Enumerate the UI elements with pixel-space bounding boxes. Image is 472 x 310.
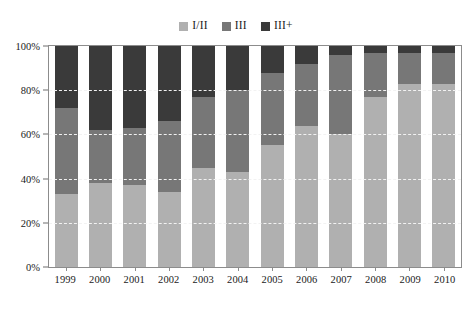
legend-swatch-iii-plus [261,22,270,31]
stacked-bar-2010[interactable] [432,46,455,267]
y-axis-tick-label: 60% [21,129,40,140]
bar-segment-1999-i-ii[interactable] [55,194,78,267]
chart-legend: I/IIIIIIII+ [0,18,472,34]
stacked-bar-2009[interactable] [398,46,421,267]
bar-slot-2004 [221,46,255,267]
y-axis-tick: 20% [21,217,49,228]
x-axis-tick-mark [375,267,376,271]
bar-segment-2006-iii[interactable] [295,64,318,126]
legend-swatch-i-ii [179,22,188,31]
bar-slot-2001 [118,46,152,267]
x-axis-label-2009: 2009 [393,274,428,285]
stacked-bar-2003[interactable] [192,46,215,267]
x-axis-label-2003: 2003 [186,274,221,285]
bar-segment-2006-i-ii[interactable] [295,126,318,267]
x-axis-labels: 1999200020012002200320042005200620072008… [48,274,462,285]
bar-segment-2003-iii[interactable] [192,46,215,97]
x-axis-label-2006: 2006 [290,274,325,285]
bar-segment-2007-iii[interactable] [329,55,352,135]
bar-segment-2004-iii[interactable] [226,46,249,90]
y-axis-tick-mark [43,134,48,135]
x-axis-label-2004: 2004 [221,274,256,285]
bar-segment-2003-iii[interactable] [192,97,215,168]
bar-slot-2003 [186,46,220,267]
x-axis-tick-mark [409,267,410,271]
y-axis-tick: 40% [21,173,49,184]
y-axis-tick-label: 0% [26,262,40,273]
bar-slot-2009 [392,46,426,267]
y-axis-tick-label: 20% [21,217,40,228]
y-axis-tick-mark [43,46,48,47]
bar-segment-2003-i-ii[interactable] [192,168,215,267]
bar-segment-2007-iii[interactable] [329,46,352,55]
bar-segment-1999-iii[interactable] [55,46,78,108]
bar-segment-2009-i-ii[interactable] [398,84,421,267]
y-axis-tick: 80% [21,85,49,96]
bar-segment-2001-iii[interactable] [123,46,146,128]
bar-segment-2005-iii[interactable] [261,46,284,73]
bar-segment-2008-i-ii[interactable] [364,97,387,267]
y-axis-tick: 60% [21,129,49,140]
bar-segment-2008-iii[interactable] [364,53,387,97]
bar-segment-2008-iii[interactable] [364,46,387,53]
x-axis-label-2008: 2008 [359,274,394,285]
bar-segment-2004-i-ii[interactable] [226,172,249,267]
stacked-bar-2000[interactable] [89,46,112,267]
legend-swatch-iii [222,22,231,31]
bar-segment-2002-iii[interactable] [158,46,181,121]
legend-entry-iii[interactable]: III+ [261,20,293,32]
bar-segment-2000-iii[interactable] [89,130,112,183]
bar-segment-2005-i-ii[interactable] [261,145,284,267]
stacked-bar-2002[interactable] [158,46,181,267]
stacked-bar-2008[interactable] [364,46,387,267]
bar-segment-2005-iii[interactable] [261,73,284,146]
bar-segment-2001-iii[interactable] [123,128,146,185]
stacked-bar-chart: I/IIIIIIII+ 0%20%40%60%80%100% 199920002… [0,0,472,310]
y-axis-tick: 100% [16,41,50,52]
x-axis-tick-mark [66,267,67,271]
bar-segment-2010-i-ii[interactable] [432,84,455,267]
stacked-bar-2005[interactable] [261,46,284,267]
x-axis-label-2001: 2001 [117,274,152,285]
x-axis-label-1999: 1999 [48,274,83,285]
bar-segment-2010-iii[interactable] [432,46,455,53]
stacked-bar-1999[interactable] [55,46,78,267]
bar-segment-2007-i-ii[interactable] [329,134,352,267]
bar-segment-2009-iii[interactable] [398,53,421,84]
bar-segment-2002-iii[interactable] [158,121,181,192]
bar-segment-2009-iii[interactable] [398,46,421,53]
x-axis-tick-mark [169,267,170,271]
bar-segment-2000-iii[interactable] [89,46,112,130]
bar-slot-2006 [289,46,323,267]
y-axis-tick-label: 80% [21,85,40,96]
x-axis-tick-mark [341,267,342,271]
stacked-bar-2006[interactable] [295,46,318,267]
x-axis-tick-mark [238,267,239,271]
bar-segment-2006-iii[interactable] [295,46,318,64]
bar-segment-1999-iii[interactable] [55,108,78,194]
y-axis-tick-mark [43,90,48,91]
stacked-bar-2004[interactable] [226,46,249,267]
y-axis-tick-mark [43,222,48,223]
bar-slot-1999 [49,46,83,267]
legend-entry-iii[interactable]: III [222,20,247,32]
legend-entry-i-ii[interactable]: I/II [179,20,207,32]
bar-slot-2002 [152,46,186,267]
x-axis-label-2002: 2002 [152,274,187,285]
x-axis-label-2005: 2005 [255,274,290,285]
x-axis-tick-mark [135,267,136,271]
bar-segment-2001-i-ii[interactable] [123,185,146,267]
stacked-bar-2001[interactable] [123,46,146,267]
bar-segment-2002-i-ii[interactable] [158,192,181,267]
bar-segment-2004-iii[interactable] [226,90,249,172]
legend-label: III [235,20,247,32]
plot-inner: 0%20%40%60%80%100% [49,46,461,267]
bar-group [49,46,461,267]
y-axis-tick-mark [43,267,48,268]
bar-segment-2010-iii[interactable] [432,53,455,84]
y-axis-tick-label: 100% [16,41,41,52]
stacked-bar-2007[interactable] [329,46,352,267]
x-axis-tick-mark [203,267,204,271]
bar-segment-2000-i-ii[interactable] [89,183,112,267]
bar-slot-2008 [358,46,392,267]
